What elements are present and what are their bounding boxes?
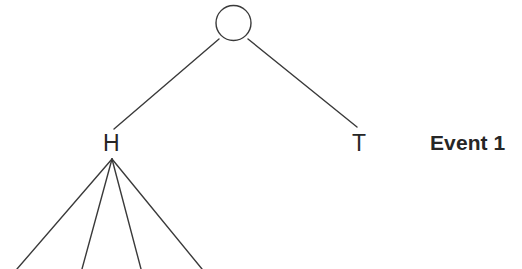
h-child-fan-group — [17, 159, 202, 269]
t-node-label: T — [352, 132, 366, 155]
branch-root-to-t — [248, 39, 357, 127]
fan-branch-4 — [112, 159, 202, 269]
probability-tree-diagram: H T Event 1 — [0, 0, 522, 269]
event-1-label: Event 1 — [430, 132, 505, 153]
fan-branch-3 — [112, 159, 141, 269]
root-node-circle — [216, 6, 251, 41]
h-node-label: H — [103, 132, 120, 155]
fan-branch-1 — [17, 159, 112, 269]
branch-root-to-h — [114, 39, 219, 129]
